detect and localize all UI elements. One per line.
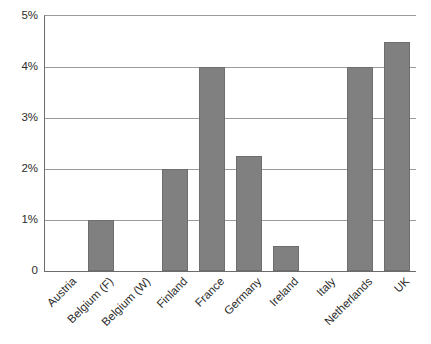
bar-belgium-f: [88, 220, 114, 271]
bar-uk: [384, 42, 410, 272]
bar-chart: 5% 4% 3% 2% 1% 0 AustriaBelgium (F)Belgi…: [0, 0, 431, 344]
plot-area: [44, 15, 416, 272]
bar-ireland: [273, 246, 299, 272]
y-axis-tick-label-3: 3%: [0, 111, 38, 123]
y-axis-tick-label-0: 0: [0, 264, 38, 276]
x-axis-label-uk: UK: [392, 275, 412, 295]
x-axis-label-finland: Finland: [154, 275, 189, 310]
x-axis-label-germany: Germany: [222, 275, 264, 317]
x-axis-label-france: France: [193, 275, 227, 309]
bar-netherlands: [347, 67, 373, 271]
x-axis-label-austria: Austria: [44, 275, 78, 309]
y-axis-tick-label-2: 2%: [0, 162, 38, 174]
bar-france: [199, 67, 225, 271]
y-axis-tick-label-1: 1%: [0, 213, 38, 225]
x-axis-label-ireland: Ireland: [267, 275, 300, 308]
y-axis-tick-label-4: 4%: [0, 60, 38, 72]
bar-germany: [236, 156, 262, 271]
y-axis-tick-label-5: 5%: [0, 9, 38, 21]
x-axis-label-italy: Italy: [314, 275, 337, 298]
bar-finland: [162, 169, 188, 271]
